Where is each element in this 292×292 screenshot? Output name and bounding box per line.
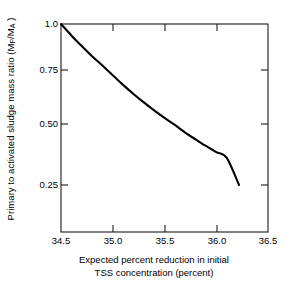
chart-figure: Primary to activated sludge mass ratio (… bbox=[0, 0, 292, 292]
x-tick-label: 36.0 bbox=[197, 236, 237, 246]
x-axis-tick-labels: 34.5 35.0 35.5 36.0 36.5 bbox=[0, 236, 292, 250]
x-axis-title-line-1: Expected percent reduction in initial bbox=[38, 254, 270, 267]
x-tick-label: 35.0 bbox=[93, 236, 133, 246]
x-tick-label: 36.5 bbox=[248, 236, 288, 246]
x-tick-label: 34.5 bbox=[41, 236, 81, 246]
x-tick-label: 35.5 bbox=[145, 236, 185, 246]
x-axis-title-line-2: TSS concentration (percent) bbox=[38, 267, 270, 280]
x-axis-title: Expected percent reduction in initial TS… bbox=[38, 254, 270, 279]
